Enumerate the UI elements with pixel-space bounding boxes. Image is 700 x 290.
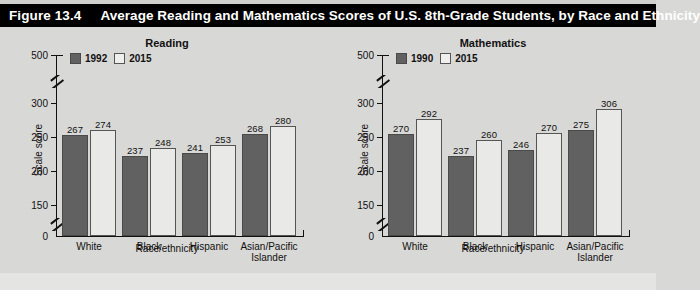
- bars-reading: 267 274 White 237 248: [56, 55, 304, 236]
- chart-panel-reading: Reading Scale score 500 300 250: [4, 27, 330, 273]
- bar-group-white: 270 292 White: [388, 55, 442, 236]
- bar-value-label: 237: [127, 145, 143, 156]
- y-tick-label-0: 0: [368, 231, 374, 242]
- legend-mathematics: 1990 2015: [396, 53, 478, 64]
- bar-math-hispanic-1990[interactable]: 246: [508, 150, 534, 236]
- bars-mathematics: 270 292 White 237 260: [382, 55, 630, 236]
- bar-math-white-1990[interactable]: 270: [388, 134, 414, 236]
- bar-reading-asian-2015[interactable]: 280: [270, 126, 296, 236]
- y-tick-label-0: 0: [42, 231, 48, 242]
- bar-reading-asian-1992[interactable]: 268: [242, 134, 268, 236]
- bar-value-label: 267: [67, 124, 83, 135]
- legend-label-1992: 1992: [85, 53, 107, 64]
- bar-reading-white-1992[interactable]: 267: [62, 135, 88, 236]
- bar-value-label: 270: [541, 122, 557, 133]
- legend-item-1990[interactable]: 1990: [396, 53, 433, 64]
- bar-reading-hispanic-2015[interactable]: 253: [210, 145, 236, 236]
- bar-group-white: 267 274 White: [62, 55, 116, 236]
- chart-title-reading: Reading: [4, 37, 330, 49]
- legend-swatch-icon-2015: [440, 53, 451, 64]
- bar-math-white-2015[interactable]: 292: [416, 119, 442, 236]
- plot-area-reading: 500 300 250 200 150: [56, 55, 304, 237]
- bar-group-asian-pacific-islander: 275 306 Asian/Pacific Islander: [568, 55, 622, 236]
- figure-number: Figure 13.4: [0, 8, 81, 23]
- y-tick-label-250: 250: [31, 132, 48, 143]
- legend-swatch-icon-1992: [70, 53, 81, 64]
- bar-group-hispanic: 241 253 Hispanic: [182, 55, 236, 236]
- bar-value-label: 237: [453, 145, 469, 156]
- y-tick-label-200: 200: [31, 166, 48, 177]
- figure-title-bar: Figure 13.4 Average Reading and Mathemat…: [0, 4, 656, 27]
- bar-value-label: 253: [215, 134, 231, 145]
- bar-value-label: 260: [481, 129, 497, 140]
- bar-value-label: 268: [247, 123, 263, 134]
- legend-label-1990: 1990: [411, 53, 433, 64]
- x-axis-line: [382, 236, 630, 237]
- bar-value-label: 280: [275, 115, 291, 126]
- bar-reading-black-2015[interactable]: 248: [150, 148, 176, 236]
- bar-value-label: 292: [421, 108, 437, 119]
- bar-value-label: 241: [187, 142, 203, 153]
- legend-swatch-icon-1990: [396, 53, 407, 64]
- y-tick-label-150: 150: [357, 200, 374, 211]
- bar-reading-white-2015[interactable]: 274: [90, 130, 116, 236]
- charts-area: Reading Scale score 500 300 250: [0, 27, 656, 273]
- chart-panel-mathematics: Mathematics Scale score 500 300 250: [330, 27, 656, 273]
- legend-label-2015: 2015: [455, 53, 477, 64]
- bar-value-label: 246: [513, 139, 529, 150]
- bar-math-asian-1990[interactable]: 275: [568, 130, 594, 236]
- bar-value-label: 275: [573, 119, 589, 130]
- bar-value-label: 248: [155, 137, 171, 148]
- chart-title-mathematics: Mathematics: [330, 37, 656, 49]
- x-axis-title-reading: Race/ethnicity: [4, 243, 330, 254]
- y-tick-label-500: 500: [31, 50, 48, 61]
- page-title: Average Reading and Mathematics Scores o…: [81, 8, 700, 23]
- bar-math-black-1990[interactable]: 237: [448, 156, 474, 236]
- bar-reading-hispanic-1992[interactable]: 241: [182, 153, 208, 236]
- x-axis-line: [56, 236, 304, 237]
- y-tick-label-150: 150: [31, 200, 48, 211]
- x-axis-title-mathematics: Race/ethnicity: [330, 243, 656, 254]
- y-tick-label-300: 300: [31, 98, 48, 109]
- bar-reading-black-1992[interactable]: 237: [122, 156, 148, 236]
- bar-value-label: 270: [393, 123, 409, 134]
- bar-group-asian-pacific-islander: 268 280 Asian/Pacific Islander: [242, 55, 296, 236]
- y-tick-label-500: 500: [357, 50, 374, 61]
- legend-label-2015: 2015: [129, 53, 151, 64]
- bar-value-label: 306: [601, 98, 617, 109]
- footnote-strip: [0, 273, 656, 290]
- bar-group-black: 237 260 Black: [448, 55, 502, 236]
- bar-math-hispanic-2015[interactable]: 270: [536, 133, 562, 236]
- y-tick-label-200: 200: [357, 166, 374, 177]
- legend-item-1992[interactable]: 1992: [70, 53, 107, 64]
- y-tick-label-300: 300: [357, 98, 374, 109]
- legend-item-2015[interactable]: 2015: [440, 53, 477, 64]
- bar-group-hispanic: 246 270 Hispanic: [508, 55, 562, 236]
- bar-math-asian-2015[interactable]: 306: [596, 109, 622, 236]
- legend-reading: 1992 2015: [70, 53, 152, 64]
- y-tick-label-250: 250: [357, 132, 374, 143]
- bar-group-black: 237 248 Black: [122, 55, 176, 236]
- plot-area-mathematics: 500 300 250 200 150: [382, 55, 630, 237]
- legend-swatch-icon-2015: [114, 53, 125, 64]
- bar-value-label: 274: [95, 119, 111, 130]
- bar-math-black-2015[interactable]: 260: [476, 140, 502, 236]
- legend-item-2015[interactable]: 2015: [114, 53, 151, 64]
